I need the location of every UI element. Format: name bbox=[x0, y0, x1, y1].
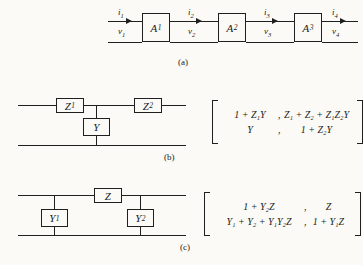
rail-b-bottom bbox=[18, 145, 186, 146]
rail-c-top-seg2 bbox=[122, 195, 186, 196]
label-v1: v1 bbox=[118, 27, 125, 38]
label-v2: v2 bbox=[188, 27, 195, 38]
current-arrow-1 bbox=[126, 18, 132, 24]
matrix-c-cell-11: 1 + Y₂Z bbox=[214, 199, 304, 215]
block-a3-label: A bbox=[302, 22, 309, 34]
block-y1-sub: 1 bbox=[56, 214, 60, 223]
matrix-c-cell-21: Y₁ + Y₂ + Y₁Y₂Z bbox=[214, 214, 304, 230]
label-i1-sub: 1 bbox=[121, 12, 124, 19]
block-y2-label: Y bbox=[135, 212, 141, 224]
shunt-b-lead-bottom bbox=[96, 136, 97, 146]
matrix-c-row-2: Y₁ + Y₂ + Y₁Y₂Z , 1 + Y₁Z bbox=[214, 214, 351, 230]
block-y-shunt[interactable]: Y bbox=[83, 118, 110, 136]
matrix-b-row-2: Y , 1 + Z₂Y bbox=[222, 122, 353, 138]
label-i4: i4 bbox=[332, 8, 338, 19]
block-z-series[interactable]: Z bbox=[94, 188, 122, 203]
block-z1[interactable]: Z1 bbox=[56, 98, 84, 113]
matrix-b: 1 + Z₁Y , Z₁ + Z₂ + Z₁Z₂Y Y , 1 + Z₂Y bbox=[212, 100, 363, 144]
matrix-c: 1 + Y₂Z , Z Y₁ + Y₂ + Y₁Y₂Z , 1 + Y₁Z bbox=[204, 192, 361, 236]
block-z2[interactable]: Z2 bbox=[134, 98, 162, 113]
block-y1[interactable]: Y1 bbox=[41, 209, 68, 227]
block-y1-label: Y bbox=[49, 212, 55, 224]
label-v4: v4 bbox=[332, 27, 339, 38]
rail-a-bot-seg1 bbox=[108, 42, 142, 43]
matrix-c-bracket-right bbox=[355, 192, 361, 236]
rail-a-bot-seg4 bbox=[322, 42, 358, 43]
label-v2-sub: 2 bbox=[192, 31, 195, 38]
rail-a-top-seg3 bbox=[246, 21, 294, 22]
matrix-b-cell-11: 1 + Z₁Y bbox=[222, 107, 278, 123]
label-v4-sub: 4 bbox=[336, 31, 339, 38]
current-arrow-2 bbox=[196, 18, 202, 24]
rail-a-bot-seg3 bbox=[246, 42, 294, 43]
matrix-c-cell-22: 1 + Y₁Z bbox=[307, 214, 351, 230]
block-z1-label: Z bbox=[65, 100, 71, 112]
shunt-c1-lead-top bbox=[54, 195, 55, 209]
shunt-b-lead-top bbox=[96, 105, 97, 118]
label-v3: v3 bbox=[264, 27, 271, 38]
rail-b-top-seg1 bbox=[18, 105, 56, 106]
caption-a: (a) bbox=[178, 57, 188, 67]
matrix-b-row-1: 1 + Z₁Y , Z₁ + Z₂ + Z₁Z₂Y bbox=[222, 107, 353, 123]
rail-b-top-seg2 bbox=[84, 105, 134, 106]
block-a2-sub: 2 bbox=[234, 23, 238, 32]
label-v1-sub: 1 bbox=[122, 31, 125, 38]
block-z2-label: Z bbox=[143, 100, 149, 112]
label-i1: i1 bbox=[118, 8, 124, 19]
block-a1-label: A bbox=[150, 22, 157, 34]
block-a3-sub: 3 bbox=[310, 23, 314, 32]
rail-c-bottom bbox=[18, 235, 186, 236]
label-i3: i3 bbox=[264, 8, 270, 19]
matrix-b-bracket-right bbox=[357, 100, 363, 144]
label-v3-sub: 3 bbox=[268, 31, 271, 38]
matrix-b-cell-21: Y bbox=[222, 122, 278, 138]
label-i4-sub: 4 bbox=[335, 12, 338, 19]
matrix-c-body: 1 + Y₂Z , Z Y₁ + Y₂ + Y₁Y₂Z , 1 + Y₁Z bbox=[210, 192, 355, 236]
figure-canvas: A1 A2 A3 i1 i2 i3 i4 v1 v2 v3 bbox=[0, 0, 363, 265]
block-a1[interactable]: A1 bbox=[142, 13, 170, 42]
block-y-shunt-label: Y bbox=[93, 121, 99, 133]
rail-a-bot-seg2 bbox=[170, 42, 218, 43]
rail-c-top-seg1 bbox=[18, 195, 94, 196]
label-i2-sub: 2 bbox=[191, 12, 194, 19]
matrix-c-row-1: 1 + Y₂Z , Z bbox=[214, 199, 351, 215]
label-i2: i2 bbox=[188, 8, 194, 19]
shunt-c1-lead-bottom bbox=[54, 227, 55, 236]
block-z1-sub: 1 bbox=[71, 101, 75, 110]
current-arrow-3 bbox=[272, 18, 278, 24]
block-z2-sub: 2 bbox=[149, 101, 153, 110]
matrix-c-cell-12: Z bbox=[307, 199, 351, 215]
current-arrow-4 bbox=[340, 18, 346, 24]
block-y2-sub: 2 bbox=[142, 214, 146, 223]
matrix-b-cell-12: Z₁ + Z₂ + Z₁Z₂Y bbox=[281, 107, 353, 123]
block-z-series-label: Z bbox=[105, 190, 111, 202]
label-i3-sub: 3 bbox=[267, 12, 270, 19]
block-a2-label: A bbox=[226, 22, 233, 34]
block-a2[interactable]: A2 bbox=[218, 13, 246, 42]
caption-c: (c) bbox=[180, 242, 190, 252]
block-a1-sub: 1 bbox=[158, 23, 162, 32]
block-a3[interactable]: A3 bbox=[294, 13, 322, 42]
rail-a-top-seg2 bbox=[170, 21, 218, 22]
shunt-c2-lead-bottom bbox=[140, 227, 141, 236]
block-y2[interactable]: Y2 bbox=[127, 209, 154, 227]
shunt-c2-lead-top bbox=[140, 195, 141, 209]
rail-b-top-seg3 bbox=[162, 105, 186, 106]
matrix-b-cell-22: 1 + Z₂Y bbox=[281, 122, 353, 138]
caption-b: (b) bbox=[164, 152, 175, 162]
matrix-b-body: 1 + Z₁Y , Z₁ + Z₂ + Z₁Z₂Y Y , 1 + Z₂Y bbox=[218, 100, 357, 144]
rail-a-top-seg1 bbox=[108, 21, 142, 22]
